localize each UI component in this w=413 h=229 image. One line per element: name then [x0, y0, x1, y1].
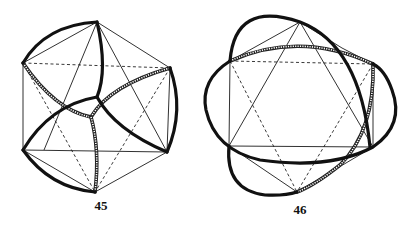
diagram-canvas: 45 46	[0, 0, 413, 229]
visible-edge	[229, 22, 300, 146]
thick-curve	[230, 16, 370, 147]
hatched-curve	[91, 117, 97, 192]
hatched-curve	[23, 63, 91, 117]
figure-46-octahedron	[205, 16, 396, 195]
visible-edge	[167, 68, 170, 152]
visible-edge	[97, 22, 170, 68]
polyhedron-diagrams	[0, 0, 413, 229]
hidden-edge	[230, 61, 373, 64]
figure-46-caption: 46	[294, 202, 307, 218]
visible-edge	[229, 61, 230, 146]
thick-curve	[97, 22, 103, 97]
hidden-edge	[95, 68, 170, 192]
figure-45-octahedron	[23, 22, 177, 192]
thick-curve	[97, 97, 167, 152]
visible-edge	[44, 22, 97, 150]
visible-edge	[95, 152, 167, 192]
visible-edge	[229, 146, 373, 147]
visible-edge	[23, 22, 97, 63]
figure-45-caption: 45	[95, 198, 108, 214]
hidden-edge	[23, 63, 170, 68]
hidden-edge	[23, 63, 95, 192]
hatched-curve-fill	[23, 63, 91, 117]
visible-edge	[23, 150, 95, 192]
